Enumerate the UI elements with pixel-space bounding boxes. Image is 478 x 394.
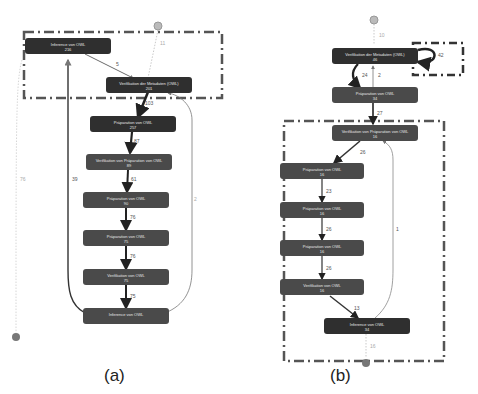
edge-label: 76 [130,253,136,259]
edge-label: 11 [160,40,165,46]
panel-a-node-3[interactable]: Präparation von OWL 257 [90,116,176,132]
edge-label: 26 [360,149,366,155]
edge-label: 42 [438,52,444,58]
node-count: 34 [324,327,410,332]
panel-b-edge-n8-n3 [375,141,393,318]
node-count: 75 [83,239,169,244]
panel-b-node-8[interactable]: Inference von OWL 34 [324,318,410,334]
edge-label: 76 [20,176,26,182]
panel-a-caption: (a) [104,366,125,386]
node-count: 89 [86,163,172,168]
edge-label: 39 [72,176,78,182]
node-count: 216 [25,47,111,52]
edge-label: 26 [326,265,332,271]
edge-label: 24 [362,72,368,78]
panel-b-node-5[interactable]: Präparation von OWL 16 [280,202,364,218]
panel-b-start-marker [370,16,378,24]
panel-b-node-4[interactable]: Präparation von OWL 16 [280,163,364,179]
panel-a-node-1[interactable]: Inference von OWL 216 [25,38,111,54]
edge-label: 87 [134,138,140,144]
panel-a-end-marker [12,333,20,341]
panel-a-node-8[interactable]: Inference von OWL [83,308,169,324]
node-count: 34 [332,96,418,101]
node-count: 16 [280,249,364,254]
panel-b-edge-n1-n2 [353,64,360,88]
panel-b-node-2[interactable]: Präparation von OWL 34 [332,87,418,103]
panel-a-node-5[interactable]: Präparation von OWL 90 [83,192,169,208]
panel-a-edge-n1-n2 [85,54,133,78]
edge-label: 16 [370,343,376,349]
panel-a-node-6[interactable]: Präparation von OWL 75 [83,230,169,246]
panel-a-node-4[interactable]: Verifikation von Präparation von OWL 89 [86,154,172,170]
panel-b-node-1[interactable]: Verifikation der Metadaten (OWL) 46 [332,48,418,64]
node-count: 46 [332,57,418,62]
panel-a-edge-start-end [16,60,22,333]
panel-a-node-7[interactable]: Verifikation von OWL 75 [83,269,169,285]
edge-label: 13 [354,305,360,311]
edge-label: 2 [194,196,197,202]
node-count: 90 [83,201,169,206]
node-count: 16 [332,134,418,139]
node-count: 201 [106,86,192,91]
edge-label: 10 [379,32,385,38]
panel-a-edge-n4-n5 [127,170,128,192]
panel-a-start-marker [154,22,162,30]
panel-a-edge-n3-n4 [130,132,132,153]
edge-label: 2 [378,72,381,78]
edge-label: 26 [326,226,332,232]
node-count: 75 [83,278,169,283]
panel-b-node-6[interactable]: Präparation von OWL 16 [280,240,364,256]
panel-b-node-3[interactable]: Verifikation von Präparation von OWL 16 [332,125,418,141]
edge-label: 75 [130,293,136,299]
node-label: Inference von OWL [83,312,169,317]
panel-a-edge-start-n2 [148,30,158,78]
panel-b-caption: (b) [330,366,351,386]
panel-b-edge-self-loop [418,49,435,63]
node-count: 16 [280,211,364,216]
edge-label: 61 [131,176,137,182]
node-count: 16 [280,172,364,177]
edge-label: 23 [326,188,332,194]
node-count: 16 [280,288,364,293]
panel-b-self-loop-highlight-box [413,43,463,75]
panel-a-node-2[interactable]: Verifikation der Metadaten (OWL) 201 [106,77,192,93]
edge-label: 103 [145,100,153,106]
panel-b-node-7[interactable]: Verifikation von OWL 16 [280,279,364,295]
panel-b-end-marker [362,359,370,367]
node-count: 257 [90,125,176,130]
edge-label: 1 [396,226,399,232]
edge-label: 5 [116,61,119,67]
edge-label: 76 [130,214,136,220]
panel-b-edge-n3-n4 [334,141,360,163]
edge-label: 27 [377,110,383,116]
